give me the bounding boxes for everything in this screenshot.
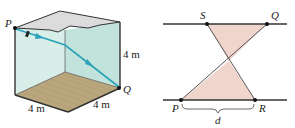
diagram-canvas: P Q 4 m 4 m 4 m S Q P R d: [0, 0, 295, 128]
label-width-right: 4 m: [93, 98, 110, 110]
cube-figure: P Q 4 m 4 m 4 m: [4, 11, 140, 114]
point-p-cube: [13, 26, 17, 30]
label-r: R: [258, 102, 266, 114]
upper-triangle: [207, 24, 267, 61]
point-p: [179, 98, 183, 102]
label-q: Q: [271, 9, 279, 21]
label-p-cube: P: [4, 17, 12, 29]
point-q: [265, 22, 269, 26]
label-p: P: [171, 102, 179, 114]
distance-brace: [182, 104, 254, 113]
label-d: d: [215, 114, 221, 126]
label-height: 4 m: [123, 48, 140, 60]
label-width-left: 4 m: [28, 102, 45, 114]
point-s: [205, 22, 209, 26]
label-q-cube: Q: [123, 83, 131, 95]
point-q-cube: [117, 86, 121, 90]
label-s: S: [200, 9, 206, 21]
crossing-figure: S Q P R d: [163, 9, 287, 126]
point-r: [253, 98, 257, 102]
